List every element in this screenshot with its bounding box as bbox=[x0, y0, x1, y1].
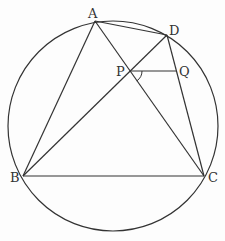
label-d: D bbox=[169, 23, 179, 38]
segment-ab bbox=[23, 21, 95, 176]
label-a: A bbox=[87, 6, 98, 21]
label-p: P bbox=[116, 64, 125, 79]
segment-dc bbox=[167, 35, 204, 176]
label-c: C bbox=[208, 170, 218, 185]
angle-mark bbox=[137, 71, 142, 81]
segments bbox=[23, 21, 204, 176]
segment-ac bbox=[95, 21, 204, 176]
diagram-canvas: A D P Q B C bbox=[0, 0, 225, 241]
circumcircle bbox=[8, 21, 218, 231]
geometry-diagram: A D P Q B C bbox=[0, 0, 225, 241]
segment-bd bbox=[23, 35, 167, 176]
label-q: Q bbox=[179, 64, 190, 79]
label-b: B bbox=[10, 170, 20, 185]
